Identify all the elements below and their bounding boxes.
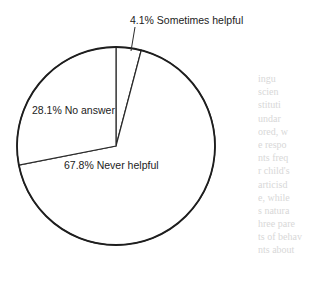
bleed-text-line: nts freq	[258, 151, 313, 164]
slice-label-never-helpful: 67.8% Never helpful	[64, 159, 159, 171]
bleed-text-line: s natura	[258, 204, 313, 217]
bleed-text-line: nts about	[258, 243, 313, 256]
bleed-text-line: ts of behav	[258, 230, 313, 243]
bleed-text-line: scien	[258, 85, 313, 98]
leader-line-sometimes-helpful	[131, 27, 135, 51]
bleed-text-line: hree pare	[258, 217, 313, 230]
bleed-text-line: stituti	[258, 98, 313, 111]
slice-label-no-answer: 28.1% No answer	[32, 104, 115, 116]
bleed-text-line: r child's	[258, 164, 313, 177]
slice-label-sometimes-helpful: 4.1% Sometimes helpful	[130, 14, 243, 26]
bleed-text-line: undar	[258, 112, 313, 125]
bleed-text-line: ored, w	[258, 125, 313, 138]
bleed-text-line: articisd	[258, 178, 313, 191]
bleed-text-line: e, while	[258, 191, 313, 204]
bleed-through-text: inguscienstitutiundarored, we responts f…	[258, 72, 313, 257]
bleed-text-line: e respo	[258, 138, 313, 151]
bleed-text-line: ingu	[258, 72, 313, 85]
pie-slices	[17, 47, 215, 245]
